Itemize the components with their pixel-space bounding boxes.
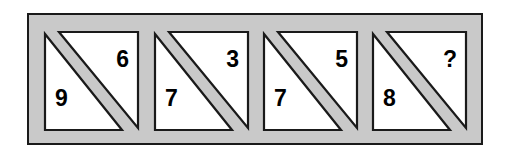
panel-2-top-right-digit: 3 xyxy=(226,48,239,71)
puzzle-frame: 6 9 3 7 5 7 ? xyxy=(27,13,483,145)
panel-4-shape xyxy=(370,29,469,134)
panel-3-shape xyxy=(261,29,360,134)
panel-2-bottom-left-digit: 7 xyxy=(165,87,178,110)
panel-4-missing-value-question-mark: ? xyxy=(443,48,457,71)
panel-3-bottom-left-digit: 7 xyxy=(274,87,287,110)
panel-2[interactable]: 3 7 xyxy=(152,29,251,134)
panel-2-shape xyxy=(152,29,251,134)
puzzle-figure: 6 9 3 7 5 7 ? xyxy=(0,0,511,159)
panel-1-top-right-digit: 6 xyxy=(116,48,129,71)
panel-3-top-right-digit: 5 xyxy=(335,48,348,71)
panel-1-bottom-left-digit: 9 xyxy=(55,87,68,110)
panel-1[interactable]: 6 9 xyxy=(42,29,141,134)
panel-1-shape xyxy=(42,29,141,134)
panel-3[interactable]: 5 7 xyxy=(261,29,360,134)
panel-4-bottom-left-digit: 8 xyxy=(383,87,396,110)
panel-4[interactable]: ? 8 xyxy=(370,29,469,134)
